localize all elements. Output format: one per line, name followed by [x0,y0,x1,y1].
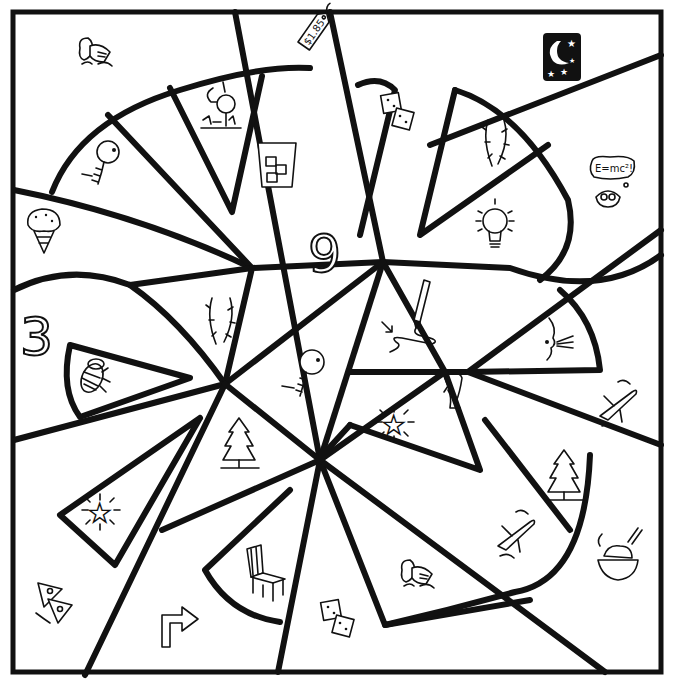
chair-icon [247,545,285,601]
svg-text:★: ★ [560,67,568,77]
knight-helmet-icon [80,38,113,66]
equation-label: E=mc²! [595,163,633,174]
dice-icon-2 [321,600,354,637]
skeleton-icon [82,141,119,184]
glass-of-ice-icon [258,143,296,187]
night-sky-icon: ★ ★ ★ ★ [543,33,581,81]
golf-ball-icon [201,82,241,128]
number-three-label: 3 [20,307,53,367]
star-icon-2: ★ [82,494,120,530]
turn-right-arrow-icon [162,607,198,647]
pizza-slices-icon [36,583,72,623]
einstein-thinker-icon: E=mc²! [590,157,634,208]
star-icon: ★ [376,406,414,442]
light-bulb-icon [476,199,514,247]
vine-icon [482,120,509,166]
svg-text:★: ★ [567,38,576,49]
knight-helmet-icon-2 [402,560,435,588]
blowing-face-icon [545,318,573,360]
number-nine-label: 9 [308,224,341,284]
vine-icon-2 [206,298,235,344]
pine-tree-icon-2 [546,450,584,500]
airplane-icon-2 [498,510,535,558]
page-border [13,12,661,672]
svg-text:★: ★ [569,57,575,65]
bowl-of-rice-icon [598,528,642,580]
ice-cream-cone-icon [28,209,60,253]
pine-tree-icon [221,418,259,468]
svg-text:★: ★ [547,69,555,79]
coloring-page: $1.85 ★ ★ ★ ★ E [0,0,673,685]
bee-icon [77,359,110,396]
